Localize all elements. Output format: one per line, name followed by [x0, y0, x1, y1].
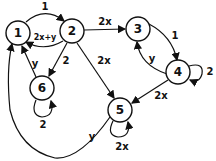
edge-label-1-2: 1: [42, 1, 49, 12]
node-1: 1: [6, 21, 30, 45]
edge-1-2: [26, 14, 64, 22]
node-2-label: 2: [68, 24, 76, 38]
node-3-label: 3: [134, 22, 142, 36]
node-6-label: 6: [38, 81, 46, 95]
node-5: 5: [108, 98, 132, 122]
node-4: 4: [166, 60, 190, 84]
edge-label-4-3: y: [149, 53, 156, 64]
edge-label-2-3: 2x: [98, 16, 112, 27]
edge-2-3: [84, 29, 125, 30]
edge-label-5-1: y: [89, 131, 96, 142]
node-1-label: 1: [14, 26, 22, 40]
edge-label-5-5: 2x: [115, 141, 129, 152]
edge-5-5: [110, 121, 128, 137]
edge-6-6: [34, 100, 52, 117]
node-2: 2: [60, 19, 84, 43]
edge-label-4-5: 2x: [154, 90, 168, 101]
node-6: 6: [30, 76, 54, 100]
edge-2-5: [77, 43, 114, 98]
edge-label-6-1: y: [32, 58, 39, 69]
edge-label-2-1: 2x+y: [34, 33, 57, 42]
edge-4-4: [189, 65, 202, 81]
edge-label-2-5: 2x: [97, 55, 111, 66]
node-5-label: 5: [116, 103, 124, 117]
edge-label-2-6: 2: [63, 55, 70, 66]
edge-label-4-4: 2: [207, 66, 214, 77]
node-3: 3: [126, 17, 150, 41]
edge-label-6-6: 2: [40, 119, 47, 130]
edge-label-3-4: 1: [172, 30, 179, 41]
graph-canvas: 1 2 3 4 5 6 1 2x+y 2x 2 2x 1 y 2 2x 2x y…: [0, 0, 216, 161]
node-4-label: 4: [174, 65, 182, 79]
